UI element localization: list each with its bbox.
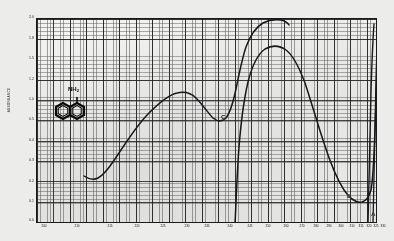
x-tick-label: 320 [366, 225, 371, 228]
x-tick-label: 290 [326, 225, 331, 228]
y-tick-label: 1.0 [2, 98, 34, 101]
nh2-label: NH2 [68, 86, 79, 92]
y-tick-label: 0.1 [2, 200, 34, 203]
spectrum-chart-sheet: ABSORBANCE 2.0 1.8 1.5 1.2 1.0 0.5 0.4 0… [0, 0, 394, 241]
x-tick-label: 315 [358, 225, 363, 228]
x-tick-label: 220 [134, 225, 139, 228]
x-tick-label: 310 [349, 225, 354, 228]
y-tick-label: 0.2 [2, 180, 34, 183]
x-tick-label: 330 [380, 225, 385, 228]
y-tick-label: 2.0 [2, 16, 34, 19]
x-tick-label: 245 [247, 225, 252, 228]
y-tick-label: 0.5 [2, 118, 34, 121]
x-tick-label: 215 [107, 225, 112, 228]
y-tick-label: 1.5 [2, 57, 34, 60]
x-tick-label: 240 [227, 225, 232, 228]
y-tick-label: 1.2 [2, 78, 34, 81]
annotation-label-b: B [347, 193, 351, 199]
spectrum-main-trace [84, 20, 289, 180]
x-tick-label: 260 [283, 225, 288, 228]
x-tick-label: 280 [313, 225, 318, 228]
y-tick-label: 0.4 [2, 139, 34, 142]
y-tick-label: 1.8 [2, 37, 34, 40]
annotation-label-c: C [221, 114, 225, 120]
x-tick-label: 250 [265, 225, 270, 228]
x-tick-label: 210 [74, 225, 79, 228]
trace-group [84, 20, 377, 223]
spectrum-right-edge-rise [373, 22, 377, 223]
y-tick-label: 0.3 [2, 159, 34, 162]
naphthalene-ring-icon [50, 86, 94, 128]
x-tick-label: 325 [373, 225, 378, 228]
x-tick-label: 235 [204, 225, 209, 228]
x-tick-label: 230 [184, 225, 189, 228]
x-tick-label: 225 [160, 225, 165, 228]
spectrum-secondary-trace [235, 43, 377, 223]
x-tick-label: 300 [338, 225, 343, 228]
annotation-label-a: A [371, 211, 375, 217]
molecular-structure-annotation: NH2 [50, 86, 94, 128]
x-tick-label: 270 [299, 225, 304, 228]
x-tick-label: 200 [41, 225, 46, 228]
y-tick-label: 0.0 [2, 219, 34, 222]
